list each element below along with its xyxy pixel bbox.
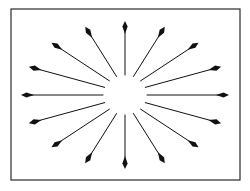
figure-container — [0, 0, 250, 191]
radial-arrow-figure — [0, 0, 250, 191]
